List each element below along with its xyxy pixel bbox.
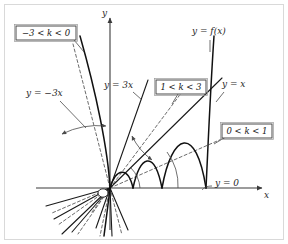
- leader-y-neg-3x: [60, 101, 86, 128]
- line-slope-between-1-and-3: [110, 92, 182, 188]
- plot-canvas: y x y = −3x y = 3x y = f(x) y = x y = 0 …: [0, 0, 288, 244]
- fan-solid-ray-5: [110, 188, 128, 230]
- math-figure: y x y = −3x y = 3x y = f(x) y = x y = 0 …: [0, 0, 288, 244]
- label-y-equals-neg-3x: y = −3x: [25, 88, 63, 98]
- boxed-label-neg3-to-0: −3 < k < 0: [15, 25, 78, 42]
- y-axis-label: y: [101, 8, 108, 18]
- label-y-equals-f-x: y = f(x): [191, 26, 226, 36]
- boxed-label-0-to-1-text: 0 < k < 1: [226, 126, 267, 136]
- line-y-equals-3x: [110, 80, 148, 188]
- curve-steep-left-branch: [80, 36, 110, 188]
- leader-box-0-to-1: [214, 138, 224, 144]
- boxed-label-neg3-to-0-text: −3 < k < 0: [22, 28, 71, 38]
- boxed-label-0-to-1: 0 < k < 1: [221, 123, 274, 140]
- curve-arch-1: [110, 172, 133, 188]
- leader-y-x: [216, 92, 224, 102]
- curve-group: [80, 36, 214, 236]
- x-axis-label: x: [264, 190, 269, 200]
- solid-lines-group: [46, 78, 222, 236]
- angle-arc-0-to-1-region: [167, 152, 178, 188]
- origin-open-point-marker: [98, 189, 108, 197]
- label-y-equals-0: y = 0: [214, 178, 239, 188]
- leader-lines-group: [60, 40, 224, 190]
- label-y-equals-x: y = x: [221, 79, 245, 89]
- leader-y-3x: [133, 92, 142, 100]
- boxed-label-1-to-3-text: 1 < k < 3: [160, 82, 201, 92]
- curve-arch-2: [133, 161, 162, 188]
- curve-steep-right-branch: [206, 36, 214, 188]
- line-y-equals-neg-3x: [73, 44, 110, 188]
- boxed-label-1-to-3: 1 < k < 3: [155, 79, 208, 96]
- label-y-equals-3x: y = 3x: [103, 80, 133, 90]
- curve-arch-3: [162, 143, 206, 188]
- angle-arc-neg-region: [62, 126, 106, 134]
